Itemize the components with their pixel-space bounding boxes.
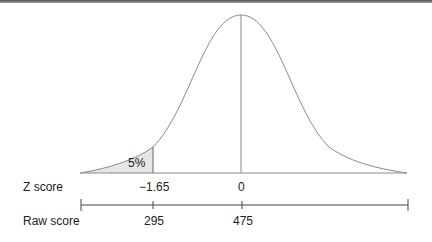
raw-value-mean: 475 <box>233 214 253 228</box>
bell-curve <box>80 15 407 173</box>
z-value-cutoff: −1.65 <box>139 180 169 194</box>
shaded-area-label: 5% <box>128 156 145 170</box>
z-value-mean: 0 <box>238 180 245 194</box>
raw-score-label: Raw score <box>23 214 80 228</box>
normal-curve-diagram <box>0 0 432 242</box>
raw-value-cutoff: 295 <box>144 214 164 228</box>
z-score-label: Z score <box>23 180 63 194</box>
